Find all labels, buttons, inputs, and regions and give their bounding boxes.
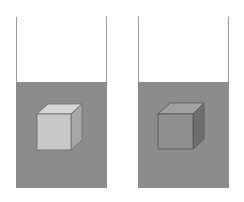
cube-dark bbox=[158, 103, 204, 149]
diagram-canvas bbox=[0, 0, 244, 202]
beaker-left bbox=[16, 17, 107, 188]
cube-light bbox=[37, 104, 82, 150]
cube-dark-front bbox=[158, 114, 193, 149]
beaker-right bbox=[138, 17, 229, 188]
cube-light-front bbox=[37, 114, 71, 150]
